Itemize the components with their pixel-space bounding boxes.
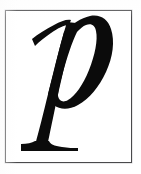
italic-p-foot-serif-path [21,141,78,151]
glyph-specimen-page: p [0,0,141,174]
italic-p-glyph-icon: p [5,10,132,163]
italic-p-stem-path [35,22,76,147]
glyph-container: p [5,10,132,163]
